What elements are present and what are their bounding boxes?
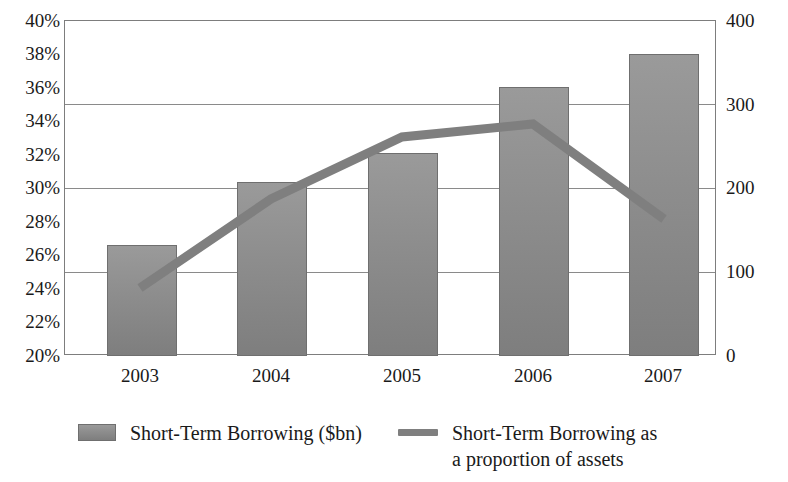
left-axis-tick: 34% xyxy=(25,111,60,130)
left-axis-tick: 30% xyxy=(25,178,60,197)
left-axis-tick: 20% xyxy=(25,346,60,365)
chart-legend: Short-Term Borrowing ($bn) Short-Term Bo… xyxy=(0,412,788,482)
x-axis-tick-2007: 2007 xyxy=(603,366,723,385)
bar-2006 xyxy=(499,87,569,356)
right-axis-tick: 100 xyxy=(726,262,755,281)
bar-2003 xyxy=(107,245,177,356)
bar-2005 xyxy=(368,153,438,356)
right-axis-tick: 200 xyxy=(726,178,755,197)
chart-container: 40% 38% 36% 34% 32% 30% 28% 26% 24% 22% … xyxy=(0,0,788,482)
legend-item-short-term-borrowing: Short-Term Borrowing ($bn) xyxy=(78,420,362,446)
left-axis-tick: 28% xyxy=(25,212,60,231)
left-axis-tick: 40% xyxy=(25,11,60,30)
bar-2007 xyxy=(629,54,699,356)
plot-area xyxy=(64,20,716,355)
legend-item-label: Short-Term Borrowing ($bn) xyxy=(130,420,362,446)
left-axis-tick: 26% xyxy=(25,245,60,264)
x-axis-tick-2003: 2003 xyxy=(80,366,200,385)
legend-item-proportion-of-assets: Short-Term Borrowing as a proportion of … xyxy=(398,420,657,472)
right-axis-tick: 0 xyxy=(726,346,736,365)
legend-line-swatch-icon xyxy=(398,429,438,436)
left-axis-tick: 36% xyxy=(25,78,60,97)
x-axis-tick-2005: 2005 xyxy=(342,366,462,385)
left-axis-tick: 24% xyxy=(25,279,60,298)
gridline-300 xyxy=(65,104,715,105)
legend-item-label: Short-Term Borrowing as a proportion of … xyxy=(452,420,657,472)
x-axis-tick-2004: 2004 xyxy=(211,366,331,385)
left-axis-tick: 32% xyxy=(25,145,60,164)
bar-2004 xyxy=(237,182,307,356)
x-axis-tick-2006: 2006 xyxy=(473,366,593,385)
left-axis-tick: 22% xyxy=(25,312,60,331)
left-axis-tick: 38% xyxy=(25,44,60,63)
legend-bar-swatch-icon xyxy=(78,424,116,441)
right-axis-tick: 300 xyxy=(726,95,755,114)
right-axis-tick: 400 xyxy=(726,11,755,30)
